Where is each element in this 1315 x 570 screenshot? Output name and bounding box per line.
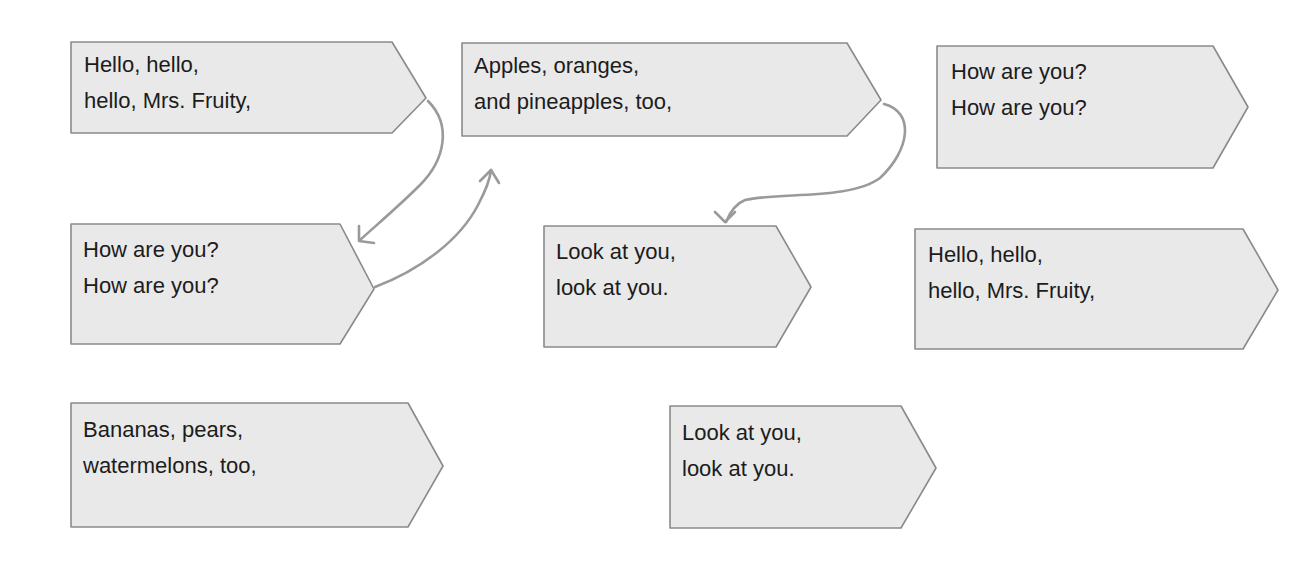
- box-3-text: How are you? How are you?: [951, 54, 1087, 126]
- lyric-line: and pineapples, too,: [474, 84, 672, 120]
- lyric-line: Apples, oranges,: [474, 48, 672, 84]
- lyric-line: look at you.: [556, 270, 676, 306]
- box-4-text: How are you? How are you?: [83, 232, 219, 304]
- box-2-text: Apples, oranges, and pineapples, too,: [474, 48, 672, 120]
- lyric-line: How are you?: [951, 54, 1087, 90]
- lyric-line: hello, Mrs. Fruity,: [928, 273, 1095, 309]
- lyric-line: Hello, hello,: [928, 237, 1095, 273]
- lyric-line: Look at you,: [556, 234, 676, 270]
- lyric-line: How are you?: [83, 232, 219, 268]
- arrowhead-icon: [715, 212, 735, 222]
- lyric-line: Look at you,: [682, 415, 802, 451]
- lyric-line: hello, Mrs. Fruity,: [84, 83, 251, 119]
- box-5-text: Look at you, look at you.: [556, 234, 676, 306]
- lyric-line: look at you.: [682, 451, 802, 487]
- connector-box4-to-box2: [375, 170, 499, 287]
- lyric-line: Bananas, pears,: [83, 412, 257, 448]
- lyric-line: Hello, hello,: [84, 47, 251, 83]
- lyric-line: How are you?: [951, 90, 1087, 126]
- lyric-line: How are you?: [83, 268, 219, 304]
- box-1-text: Hello, hello, hello, Mrs. Fruity,: [84, 47, 251, 119]
- box-6-text: Hello, hello, hello, Mrs. Fruity,: [928, 237, 1095, 309]
- lyric-line: watermelons, too,: [83, 448, 257, 484]
- box-7-text: Bananas, pears, watermelons, too,: [83, 412, 257, 484]
- box-8-text: Look at you, look at you.: [682, 415, 802, 487]
